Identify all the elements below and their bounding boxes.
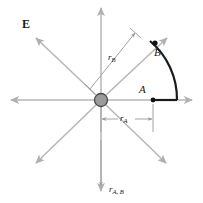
dimension-label-r-b: rB <box>108 53 116 64</box>
dimension-label-r-a-sub: A <box>124 117 128 124</box>
point-label-B: B <box>154 47 161 58</box>
field-line-downright <box>106 105 166 163</box>
radial-field-diagram: E A B rA rB rA, B <box>0 0 203 203</box>
dimension-label-r-ab-sub: A, B <box>113 188 124 195</box>
point-markers <box>95 40 158 106</box>
dimension-label-r-ab: rA, B <box>109 185 124 196</box>
field-line-downleft <box>36 105 96 163</box>
point-label-A: A <box>139 84 146 95</box>
diagram-canvas <box>0 0 203 203</box>
witness-tick-origin <box>85 84 95 94</box>
point-a-marker <box>151 98 156 103</box>
point-charge <box>95 94 108 107</box>
point-b-marker <box>152 40 157 45</box>
field-label-E: E <box>22 18 30 30</box>
dimension-label-r-a: rA <box>120 114 128 125</box>
dimension-label-r-b-sub: B <box>112 56 116 63</box>
